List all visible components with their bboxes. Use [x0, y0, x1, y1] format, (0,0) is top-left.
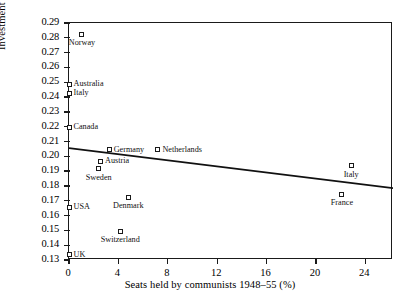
data-point-label: USA: [74, 203, 90, 211]
y-axis-tick: [64, 200, 70, 201]
y-axis-tick: [64, 67, 70, 68]
y-axis-tick-label: 0.17: [0, 195, 59, 206]
data-point-label: Netherlands: [162, 146, 202, 154]
x-axis-tick-label: 12: [196, 268, 236, 279]
x-axis-tick: [118, 258, 119, 264]
y-axis-tick-label: 0.27: [0, 47, 59, 58]
x-axis-tick: [365, 258, 366, 264]
data-point-label: Italy: [74, 89, 89, 97]
data-point-marker: [98, 159, 103, 164]
data-point-marker: [118, 229, 123, 234]
x-axis-tick-label: 4: [97, 268, 137, 279]
x-axis-tick: [315, 258, 316, 264]
data-point-label: Germany: [114, 146, 144, 154]
y-axis-tick-label: 0.18: [0, 180, 59, 191]
y-axis-tick-label: 0.19: [0, 165, 59, 176]
x-axis-tick: [68, 258, 69, 264]
y-axis-tick-label: 0.25: [0, 76, 59, 87]
data-point-marker: [67, 205, 72, 210]
x-axis-tick-label: 8: [147, 268, 187, 279]
data-point-marker: [107, 147, 112, 152]
data-point-marker: [155, 147, 160, 152]
y-axis-tick-label: 0.29: [0, 17, 59, 28]
x-axis-tick: [217, 258, 218, 264]
y-axis-tick-label: 0.28: [0, 32, 59, 43]
data-point-marker: [79, 32, 84, 37]
y-axis-tick-label: 0.20: [0, 150, 59, 161]
x-axis-title: Seats held by communists 1948–55 (%): [0, 279, 420, 290]
plot-area: NorwayAustraliaItalyCanadaGermanyNetherl…: [68, 22, 392, 259]
x-axis-tick: [167, 258, 168, 264]
data-point-marker: [96, 166, 101, 171]
y-axis-tick: [64, 22, 70, 23]
data-point-marker: [67, 82, 72, 87]
data-point-label: Austria: [105, 157, 129, 165]
y-axis-tick: [64, 185, 70, 186]
y-axis-tick: [64, 111, 70, 112]
y-axis-tick: [64, 245, 70, 246]
y-axis-tick: [64, 96, 70, 97]
y-axis-tick: [64, 156, 70, 157]
data-point-label: UK: [74, 251, 86, 259]
y-axis-tick-label: 0.23: [0, 106, 59, 117]
y-axis-tick-label: 0.24: [0, 91, 59, 102]
data-point-marker: [349, 163, 354, 168]
y-axis-tick-label: 0.26: [0, 61, 59, 72]
y-axis-tick: [64, 170, 70, 171]
data-point-marker: [126, 195, 131, 200]
y-axis-tick-label: 0.22: [0, 121, 59, 132]
y-axis-tick: [64, 230, 70, 231]
y-axis-tick-label: 0.16: [0, 210, 59, 221]
data-point-marker: [67, 91, 72, 96]
x-axis-tick-label: 16: [246, 268, 286, 279]
x-axis-tick-label: 20: [295, 268, 335, 279]
y-axis-tick-label: 0.21: [0, 136, 59, 147]
data-point-marker: [67, 252, 72, 257]
x-axis-tick: [266, 258, 267, 264]
y-axis-tick-label: 0.13: [0, 254, 59, 265]
data-point-marker: [339, 192, 344, 197]
chart-figure: Investment as a share of GNP 1948–55 Nor…: [0, 0, 420, 299]
data-point-marker: [67, 125, 72, 130]
x-axis-tick-label: 0: [48, 268, 88, 279]
y-axis-tick-label: 0.15: [0, 224, 59, 235]
x-axis-tick-label: 24: [344, 268, 384, 279]
y-axis-tick: [64, 52, 70, 53]
trend-line: [69, 23, 393, 260]
y-axis-tick-label: 0.14: [0, 239, 59, 250]
y-axis-tick: [64, 141, 70, 142]
data-point-label: Canada: [74, 123, 99, 131]
y-axis-tick: [64, 215, 70, 216]
